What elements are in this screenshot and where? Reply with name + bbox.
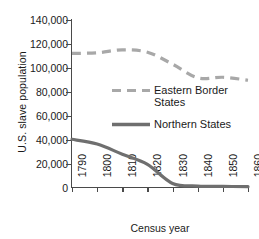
y-tick-label: 40,000 [14,135,68,145]
y-tick-label: 120,000 [14,39,68,49]
y-axis-tick-labels: 140,000 120,000 100,000 80,000 60,000 40… [14,0,68,239]
y-tick-label: 140,000 [14,15,68,25]
series-line-northern-states [72,139,248,186]
legend-swatch-dashed-icon [112,88,150,93]
y-tick-label: 20,000 [14,159,68,169]
y-tick-label: 80,000 [14,87,68,97]
legend-label-eastern-border-states-line2: States [154,96,185,109]
y-tick-label: 60,000 [14,111,68,121]
legend-label-eastern-border-states-line1: Eastern Border [154,84,228,97]
chart-container: U.S. slave population 140,000 120,000 10… [0,0,259,239]
legend-label-northern-states: Northern States [154,118,231,131]
legend-swatch-solid-icon [112,122,150,127]
x-tick-mark [198,187,199,192]
x-tick-mark [147,187,148,192]
x-tick-mark [122,187,123,192]
x-tick-label: 1860 [253,154,259,194]
series-line-eastern-border-states [72,50,248,80]
x-tick-mark [72,187,73,192]
x-tick-mark [97,187,98,192]
x-axis-title: Census year [72,222,248,234]
x-tick-mark [173,187,174,192]
y-tick-label: 0 [14,183,68,193]
y-tick-label: 100,000 [14,63,68,73]
